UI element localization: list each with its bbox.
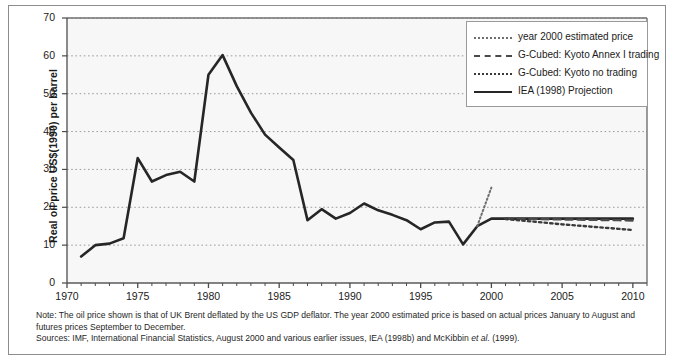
footnote-note-line-1: Note: The oil price shown is that of UK … xyxy=(36,310,646,322)
x-axis-tick-label: 1970 xyxy=(42,290,92,302)
y-axis-tick-label: 70 xyxy=(15,11,55,23)
footnote-sources: Sources: IMF, International Financial St… xyxy=(36,333,646,345)
y-axis-tick-label: 10 xyxy=(15,238,55,250)
x-axis-tick-label: 1985 xyxy=(254,290,304,302)
legend-label: G-Cubed: Kyoto no trading xyxy=(518,67,637,79)
legend-label: year 2000 estimated price xyxy=(518,31,633,43)
footnote-sources-italic: et al. xyxy=(471,333,490,343)
x-axis-tick-label: 2000 xyxy=(466,290,516,302)
footnote-note-line-2: futures prices September to December. xyxy=(36,322,646,334)
x-axis-tick-label: 1975 xyxy=(113,290,163,302)
legend-item-iea-1998-projection: IEA (1998) Projection xyxy=(474,82,641,100)
x-axis-tick-label: 2010 xyxy=(608,290,658,302)
chart-legend: year 2000 estimated price G-Cubed: Kyoto… xyxy=(466,21,648,107)
x-axis-tick-label: 1995 xyxy=(396,290,446,302)
legend-swatch-dotted-fine-icon xyxy=(474,31,512,43)
legend-swatch-solid-icon xyxy=(474,85,512,97)
x-axis-tick-label: 2005 xyxy=(537,290,587,302)
y-axis-tick-label: 40 xyxy=(15,125,55,137)
legend-item-gcubed-no-trading: G-Cubed: Kyoto no trading xyxy=(474,64,641,82)
x-axis-tick-label: 1990 xyxy=(325,290,375,302)
y-axis-tick-label: 50 xyxy=(15,87,55,99)
x-axis-tick-label: 1980 xyxy=(183,290,233,302)
figure-oil-price-chart: Real oil price US$(1990) per barrel 0102… xyxy=(0,0,674,362)
legend-label: IEA (1998) Projection xyxy=(518,85,613,97)
footnote-sources-suffix: (1999). xyxy=(490,333,520,343)
figure-footnote: Note: The oil price shown is that of UK … xyxy=(36,310,646,345)
legend-swatch-dashed-icon xyxy=(474,49,512,61)
legend-item-gcubed-annex-i-trading: G-Cubed: Kyoto Annex I trading xyxy=(474,46,641,64)
footnote-sources-prefix: Sources: IMF, International Financial St… xyxy=(36,333,471,343)
legend-item-year-2000-estimated-price: year 2000 estimated price xyxy=(474,28,641,46)
y-axis-tick-label: 20 xyxy=(15,200,55,212)
y-axis-tick-label: 30 xyxy=(15,162,55,174)
y-axis-tick-label: 60 xyxy=(15,49,55,61)
legend-swatch-dotted-icon xyxy=(474,67,512,79)
legend-label: G-Cubed: Kyoto Annex I trading xyxy=(518,49,659,61)
y-axis-tick-label: 0 xyxy=(15,276,55,288)
